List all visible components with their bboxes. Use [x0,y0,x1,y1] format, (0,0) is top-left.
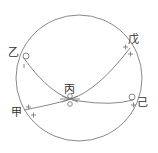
point-ji-marker [129,94,135,100]
label-jia: 甲 [11,107,22,118]
label-ji: 己 [137,97,148,108]
label-wu: 戊 [128,34,139,45]
label-bing: 丙 [64,84,75,95]
diagram-canvas [0,0,158,153]
point-bing-lower-marker [68,102,73,107]
tick-marks-jia [26,105,36,118]
label-yi: 乙 [8,47,19,58]
sphere-diagram: 乙 戊 丙 己 甲 [0,0,158,153]
point-yi-marker [23,53,29,59]
outer-circle [16,15,142,141]
